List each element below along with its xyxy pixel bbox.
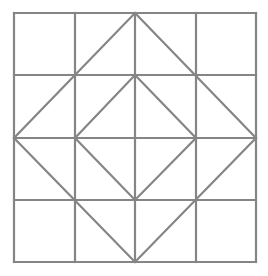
diagram-canvas xyxy=(0,0,268,276)
